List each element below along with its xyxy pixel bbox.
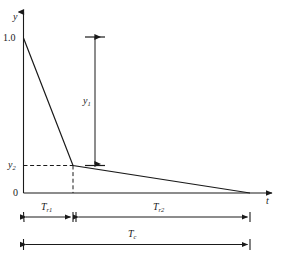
tr1-dimension-bar [24,212,74,222]
tr2-dimension-bar [76,212,250,222]
dashed-guides [24,166,74,194]
y1-dimension-label: y1 [83,96,91,106]
tc-base: T [128,228,134,239]
y-tick-label-1: 1.0 [3,33,16,43]
y-tick-label-y2: y2 [8,160,16,170]
tc-sub: c [134,233,137,240]
y1-sub: 1 [87,100,90,107]
chart-canvas [0,0,281,262]
y-axis-label: y [13,12,17,22]
y-tick-label-0: 0 [13,188,18,198]
tr2-sub: r2 [159,206,165,213]
y2-sub: 2 [12,164,15,171]
t-axis-label: t [266,196,269,206]
tc-dimension-label: Tc [128,229,136,239]
tr1-dimension-label: Tr1 [41,202,52,212]
tr1-base: T [41,201,47,212]
tr1-sub: r1 [47,206,53,213]
decay-curve [24,38,251,193]
chart-figure: y t 1.0 y2 0 y1 Tr1 Tr2 Tc [0,0,281,262]
tc-dimension-bar [24,239,251,250]
tr2-dimension-label: Tr2 [153,202,164,212]
tr2-base: T [153,201,159,212]
